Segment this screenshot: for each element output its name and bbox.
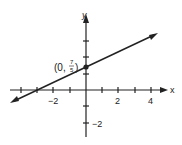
intercept-point	[83, 64, 88, 69]
point-label: (0, 7 5 )	[54, 59, 78, 73]
svg-text:5: 5	[70, 67, 74, 73]
x-axis-arrow-icon	[160, 87, 168, 93]
x-tick-label-2: 2	[115, 96, 120, 106]
svg-text:(0,: (0,	[54, 62, 66, 73]
x-axis-label: x	[170, 85, 175, 95]
svg-text:7: 7	[70, 59, 74, 65]
y-axis	[83, 14, 89, 137]
y-axis-label: y	[81, 10, 87, 20]
svg-text:): )	[75, 62, 78, 73]
x-tick-label-neg2: −2	[48, 96, 58, 106]
graph: x y −2 2 4 −2 (0, 7 5 )	[0, 0, 182, 145]
line-arrow-left-icon	[10, 96, 19, 103]
x-tick-label-4: 4	[148, 96, 153, 106]
line-arrow-right-icon	[149, 33, 158, 40]
y-tick-label-neg2: −2	[92, 119, 102, 129]
